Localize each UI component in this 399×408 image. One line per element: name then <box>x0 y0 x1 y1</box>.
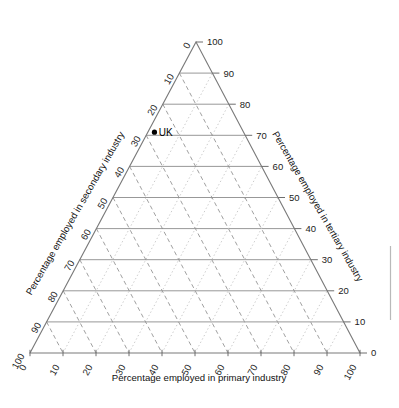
axis-title-secondary: Percentage employed in secondary industr… <box>24 130 127 297</box>
gridline-secondary-90 <box>47 322 63 353</box>
gridline-primary-10 <box>63 73 212 353</box>
tick-label-bottom-90: 90 <box>311 363 326 378</box>
ternary-plot-canvas: 0102030405060708090100010203040506070809… <box>0 0 399 408</box>
tick-label-right-30: 30 <box>322 254 333 265</box>
data-layer: UK <box>152 127 173 138</box>
ternary-plot-figure: 0102030405060708090100010203040506070809… <box>0 0 399 408</box>
axis-title-tertiary: Percentage employed in tertiary industry <box>270 129 365 283</box>
gridline-primary-70 <box>261 260 311 353</box>
tick-label-left-0: 0 <box>181 41 193 51</box>
tick-label-bottom-20: 20 <box>80 363 95 378</box>
tick-label-bottom-10: 10 <box>47 363 62 378</box>
gridline-primary-90 <box>327 322 344 353</box>
data-point-label-uk: UK <box>159 127 173 138</box>
tick-label-right-20: 20 <box>338 285 349 296</box>
grid-layer <box>47 73 344 353</box>
tick-label-right-50: 50 <box>289 192 300 203</box>
gridline-secondary-50 <box>113 198 195 354</box>
tick-label-right-40: 40 <box>305 223 316 234</box>
axis-title-primary: Percentage employed in primary industry <box>112 372 287 383</box>
gridline-secondary-30 <box>146 135 261 353</box>
gridline-primary-50 <box>195 198 278 354</box>
tick-label-right-60: 60 <box>273 161 284 172</box>
tick-label-right-90: 90 <box>223 68 234 79</box>
tick-label-bottom-100: 100 <box>341 363 358 382</box>
gridline-secondary-70 <box>80 260 129 353</box>
gridline-secondary-10 <box>179 73 327 353</box>
tick-label-right-10: 10 <box>355 316 366 327</box>
tick-label-right-100: 100 <box>207 36 223 47</box>
tick-label-right-80: 80 <box>240 99 251 110</box>
gridline-primary-30 <box>129 135 245 353</box>
data-point-uk[interactable] <box>152 130 157 135</box>
tick-label-right-70: 70 <box>256 130 267 141</box>
tick-label-right-0: 0 <box>371 347 376 358</box>
